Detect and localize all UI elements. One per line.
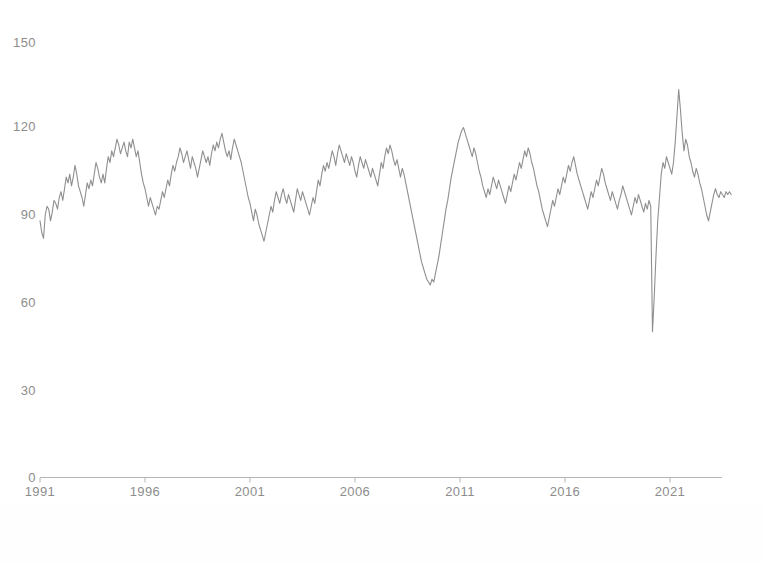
- x-tick-label-2001: 2001: [220, 485, 280, 498]
- y-tick-label-30: 30: [4, 384, 36, 397]
- y-tick-label-120: 120: [4, 120, 36, 133]
- y-tick-label-60: 60: [4, 296, 36, 309]
- x-tick-label-2011: 2011: [430, 485, 490, 498]
- x-tick-label-1996: 1996: [115, 485, 175, 498]
- x-tick-label-2016: 2016: [535, 485, 595, 498]
- y-tick-label-150: 150: [4, 36, 36, 49]
- y-tick-label-0: 0: [4, 471, 36, 484]
- data-series-line: [40, 90, 731, 332]
- x-tick-label-2021: 2021: [640, 485, 700, 498]
- x-tick-label-2006: 2006: [325, 485, 385, 498]
- chart-figure: 1501209060300 19911996200120062011201620…: [0, 0, 763, 564]
- x-tick-label-1991: 1991: [10, 485, 70, 498]
- chart-plot-area: [0, 0, 763, 564]
- x-axis-ticks: [40, 478, 670, 483]
- y-tick-label-90: 90: [4, 208, 36, 221]
